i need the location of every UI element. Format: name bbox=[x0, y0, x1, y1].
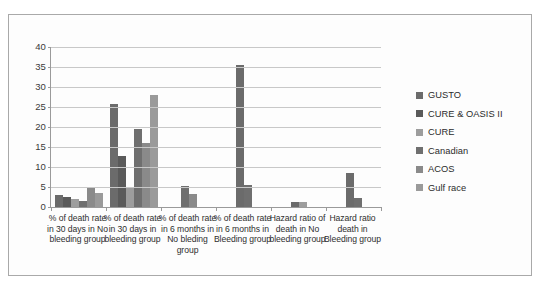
x-category-label: Hazard ratio of death in No bleeding gro… bbox=[266, 213, 329, 245]
legend-swatch-icon bbox=[416, 92, 423, 99]
y-tick-label: 40 bbox=[35, 42, 46, 52]
x-tickmark bbox=[161, 207, 162, 211]
bar bbox=[244, 185, 252, 207]
legend-item[interactable]: Canadian bbox=[416, 142, 534, 161]
bar bbox=[181, 186, 189, 207]
bar bbox=[118, 156, 126, 207]
legend-label: ACOS bbox=[428, 164, 455, 174]
y-tickmark bbox=[48, 187, 51, 188]
legend-item[interactable]: CURE & OASIS II bbox=[416, 105, 534, 124]
y-tickmark bbox=[48, 87, 51, 88]
bar bbox=[126, 188, 134, 207]
legend-label: CURE bbox=[428, 127, 455, 137]
y-tickmark bbox=[48, 67, 51, 68]
y-tick-label: 10 bbox=[35, 162, 46, 172]
y-tick-label: 20 bbox=[35, 122, 46, 132]
legend-swatch-icon bbox=[416, 110, 423, 117]
gridline bbox=[51, 127, 381, 128]
legend-swatch-icon bbox=[416, 147, 423, 154]
chart-screenshot: 4035302520151050 % of death rate in 30 d… bbox=[0, 0, 541, 292]
y-tickmark bbox=[48, 207, 51, 208]
x-tickmark bbox=[106, 207, 107, 211]
x-tickmark bbox=[381, 207, 382, 211]
gridline bbox=[51, 167, 381, 168]
bar bbox=[134, 129, 142, 207]
y-tick-label: 30 bbox=[35, 82, 46, 92]
x-category-label: % of death rate in 6 months in Bleeding … bbox=[211, 213, 274, 245]
x-category-label: % of death rate in 30 days in bleeding g… bbox=[101, 213, 164, 245]
x-tickmark bbox=[51, 207, 52, 211]
y-tickmark bbox=[48, 107, 51, 108]
y-tickmark bbox=[48, 127, 51, 128]
gridline bbox=[51, 147, 381, 148]
bar bbox=[189, 194, 197, 207]
legend-item[interactable]: GUSTO bbox=[416, 86, 534, 105]
x-tickmark bbox=[326, 207, 327, 211]
gridline bbox=[51, 47, 381, 48]
legend-swatch-icon bbox=[416, 184, 423, 191]
bar bbox=[95, 193, 103, 207]
x-category-label: Hazard ratio death in Bleeding group bbox=[321, 213, 384, 245]
bar bbox=[291, 202, 299, 207]
bar bbox=[142, 143, 150, 207]
y-tickmark bbox=[48, 47, 51, 48]
x-category-label: % of death rate in 30 days in No bleedin… bbox=[46, 213, 109, 245]
y-tick-label: 35 bbox=[35, 62, 46, 72]
legend-item[interactable]: ACOS bbox=[416, 160, 534, 179]
bar bbox=[87, 188, 95, 207]
x-tickmark bbox=[216, 207, 217, 211]
bar bbox=[110, 104, 118, 207]
bar bbox=[354, 198, 362, 207]
x-category-label: % of death rate in 6 months in No bledin… bbox=[156, 213, 219, 255]
y-axis-tick-labels: 4035302520151050 bbox=[22, 47, 46, 207]
y-tickmark bbox=[48, 147, 51, 148]
y-tick-label: 25 bbox=[35, 102, 46, 112]
bar bbox=[79, 201, 87, 207]
legend-swatch-icon bbox=[416, 166, 423, 173]
gridline bbox=[51, 107, 381, 108]
x-axis-category-labels: % of death rate in 30 days in No bleedin… bbox=[50, 213, 380, 277]
y-tick-label: 5 bbox=[41, 182, 46, 192]
legend-swatch-icon bbox=[416, 129, 423, 136]
bar bbox=[299, 202, 307, 207]
bar bbox=[55, 195, 63, 207]
legend-label: CURE & OASIS II bbox=[428, 109, 503, 119]
bar bbox=[63, 197, 71, 207]
legend-item[interactable]: CURE bbox=[416, 123, 534, 142]
legend-label: Gulf race bbox=[428, 183, 466, 193]
plot-area bbox=[50, 47, 381, 208]
y-tick-label: 0 bbox=[41, 202, 46, 212]
bar bbox=[150, 95, 158, 207]
legend-label: Canadian bbox=[428, 146, 468, 156]
legend-label: GUSTO bbox=[428, 90, 461, 100]
bar bbox=[346, 173, 354, 207]
chart-plot-wrapper: 4035302520151050 % of death rate in 30 d… bbox=[22, 22, 392, 277]
x-tickmark bbox=[271, 207, 272, 211]
legend-item[interactable]: Gulf race bbox=[416, 179, 534, 198]
bar bbox=[71, 199, 79, 207]
gridline bbox=[51, 187, 381, 188]
gridline bbox=[51, 67, 381, 68]
gridline bbox=[51, 87, 381, 88]
chart-legend: GUSTOCURE & OASIS IICURECanadianACOSGulf… bbox=[416, 86, 534, 197]
y-tick-label: 15 bbox=[35, 142, 46, 152]
y-tickmark bbox=[48, 167, 51, 168]
